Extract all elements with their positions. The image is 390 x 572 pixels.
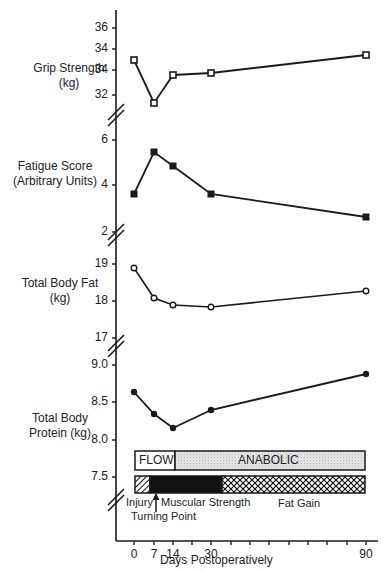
y-tick-label: 34 [78,62,108,76]
turning-point-label: Turning Point [131,510,196,522]
phase-bar-injury-muscle-fat [135,476,365,493]
fat-gain-label: Fat Gain [278,497,320,509]
y-tick-label: 18 [78,293,108,307]
fat-label-line1: Total Body Fat [12,276,108,291]
y-tick-label: 17 [78,330,108,344]
y-tick-label: 8.0 [78,432,108,446]
fatigue-score-series [131,149,370,221]
total-body-protein-series [131,371,369,431]
y-tick-label: 4 [78,177,108,191]
y-tick-label: 6 [78,132,108,146]
y-tick-label: 36 [78,20,108,34]
x-axis-title: Days Postoperatively [160,553,273,567]
protein-label-line1: Total Body [14,411,106,426]
flow-phase-label: FLOW [139,453,174,467]
x-tick-label: 90 [354,547,378,561]
y-tick-label: 8.5 [78,394,108,408]
y-tick-label: 34 [78,41,108,55]
muscular-strength-label: Muscular Strength [161,496,250,508]
y-tick-label: 2 [78,224,108,238]
figure: Grip Strength (kg) Fatigue Score (Arbitr… [0,0,390,572]
total-body-fat-series [131,265,369,310]
anabolic-phase-label: ANABOLIC [238,453,299,467]
y-tick-label: 9.0 [78,357,108,371]
fatigue-label-line1: Fatigue Score [2,159,108,174]
y-tick-label: 19 [78,256,108,270]
y-tick-label: 32 [78,87,108,101]
injury-label: Injury [126,496,153,508]
grip-strength-series [131,52,369,106]
y-tick-label: 7.5 [78,469,108,483]
